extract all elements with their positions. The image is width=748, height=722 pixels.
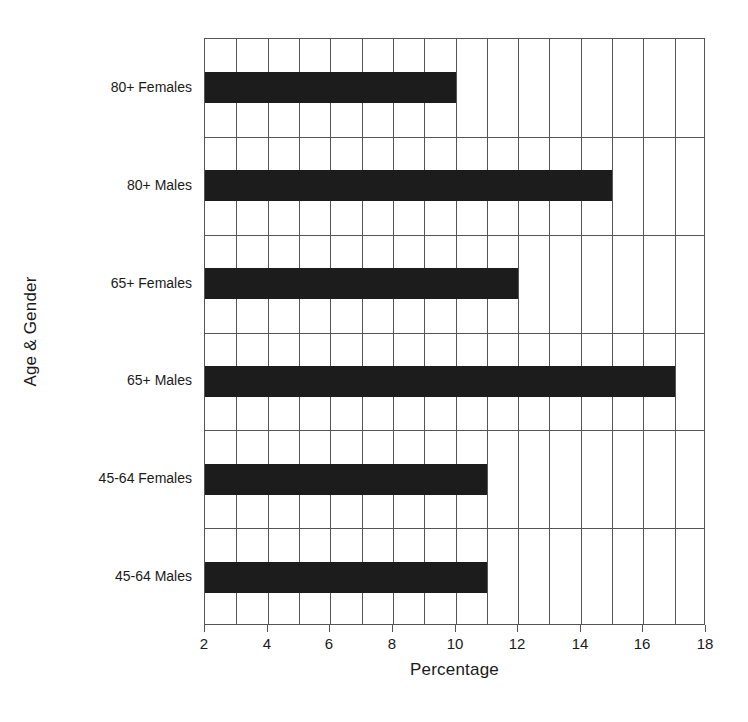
x-axis-tick-label: 14 [560,635,600,652]
vertical-gridline [424,39,425,624]
vertical-gridline [299,39,300,624]
vertical-gridline [236,39,237,624]
vertical-gridline [518,39,519,624]
x-axis-tick-label: 10 [435,635,475,652]
vertical-gridline [330,39,331,624]
y-axis-tick-label: 80+ Males [0,177,192,193]
horizontal-gridline [205,430,704,431]
bar [205,366,675,397]
x-axis-tick-label: 4 [247,635,287,652]
x-axis-tick-mark [517,625,518,632]
x-axis-tick-label: 6 [309,635,349,652]
x-axis-tick-label: 16 [622,635,662,652]
y-axis-tick-label: 45-64 Males [0,568,192,584]
y-axis-tick-label: 45-64 Females [0,470,192,486]
horizontal-gridline [205,235,704,236]
y-axis-tick-label: 65+ Females [0,275,192,291]
x-axis-tick-mark [267,625,268,632]
vertical-gridline [487,39,488,624]
x-axis-title: Percentage [204,660,705,680]
bar-chart-figure: Age & Gender 80+ Females80+ Males65+ Fem… [0,0,748,722]
vertical-gridline [549,39,550,624]
horizontal-gridline [205,333,704,334]
bar [205,170,612,201]
vertical-gridline [675,39,676,624]
vertical-gridline [393,39,394,624]
x-axis-tick-label: 12 [497,635,537,652]
vertical-gridline [612,39,613,624]
vertical-gridline [362,39,363,624]
y-axis-tick-label: 65+ Males [0,372,192,388]
x-axis-tick-mark [455,625,456,632]
vertical-gridline [581,39,582,624]
x-axis-tick-mark [329,625,330,632]
y-axis-tick-label: 80+ Females [0,79,192,95]
horizontal-gridline [205,137,704,138]
x-axis-tick-mark [705,625,706,632]
x-axis-tick-label: 8 [372,635,412,652]
vertical-gridline [456,39,457,624]
y-axis-tick-labels: 80+ Females80+ Males65+ Females65+ Males… [0,38,192,625]
bar [205,464,487,495]
x-axis-tick-label: 2 [184,635,224,652]
x-axis-tick-mark [392,625,393,632]
x-axis-tick-mark [580,625,581,632]
bar [205,72,456,103]
vertical-gridline [643,39,644,624]
bar [205,268,518,299]
horizontal-gridline [205,528,704,529]
x-axis-tick-mark [642,625,643,632]
x-axis-tick-mark [204,625,205,632]
x-axis-tick-label: 18 [685,635,725,652]
x-axis-ticks: 24681012141618 [204,625,705,665]
bar [205,562,487,593]
plot-area [204,38,705,625]
vertical-gridline [268,39,269,624]
